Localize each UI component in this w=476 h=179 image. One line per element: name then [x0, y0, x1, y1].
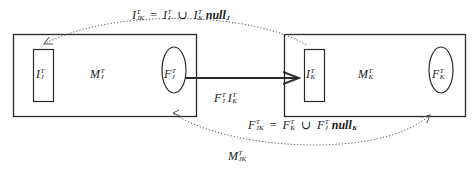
top-dotted-arc: [44, 18, 306, 45]
right-inner-label-ik: ITK: [306, 68, 315, 81]
left-box-label-mj: MTJ: [90, 68, 104, 81]
left-ellipse-label-fj: FTJ: [164, 68, 176, 81]
bottom-equation: FTJK = FTK ∪ FTJ null K: [248, 119, 357, 132]
top-equation: ITJK = ITJ ∪ ITK null J: [132, 9, 230, 22]
left-inner-label-ij: ITJ: [36, 68, 44, 81]
arrow-label: FTJITK: [214, 92, 237, 105]
right-ellipse-label-fk: FTK: [432, 68, 445, 81]
right-box-label-mk: MTK: [358, 68, 373, 81]
merged-label-mjk: MTJK: [228, 150, 246, 163]
